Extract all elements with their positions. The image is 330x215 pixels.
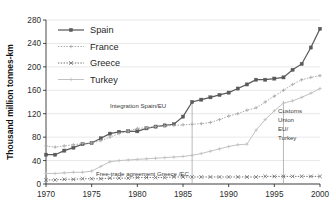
data-point-marker [200,152,203,155]
data-point-marker [72,146,75,149]
annotation-customs-line-2: Union [278,116,294,123]
x-tick-label: 1970 [37,190,56,199]
data-point-marker [53,172,56,175]
data-point-marker [318,87,321,90]
data-point-marker [209,96,212,99]
y-tick-label: 80 [32,133,42,142]
annotation-integration-spain-eu: Integration Spain/EU [110,102,166,109]
legend-item-turkey[interactable]: Turkey [58,75,118,85]
data-point-marker [191,100,194,103]
data-point-marker [254,175,258,179]
data-point-marker [300,96,303,99]
data-point-marker [309,76,312,79]
data-point-marker [209,121,212,124]
data-point-marker [209,150,212,153]
legend-label-spain: Spain [90,25,114,35]
chart-container: 04080120160200240280 1970197519801985199… [0,0,330,215]
annotation-customs-line-1: Customs [278,107,302,114]
data-point-marker [236,143,239,146]
axis-lines [46,20,320,184]
chart-legend: SpainFranceGreeceTurkey [58,25,120,85]
data-point-marker [309,92,312,95]
data-point-marker [54,153,57,156]
data-point-marker [318,27,321,30]
y-tick-label: 200 [27,63,41,72]
data-point-marker [44,172,47,175]
data-point-marker [69,78,72,81]
data-point-marker [254,78,257,81]
data-point-marker [69,28,72,31]
data-point-marker [163,156,166,159]
x-tick-label: 1995 [265,190,284,199]
data-point-marker [136,130,139,133]
data-point-marker [90,169,93,172]
data-series-layer [44,27,322,182]
data-point-marker [117,159,120,162]
data-point-marker [227,175,231,179]
data-point-marker [63,149,66,152]
data-point-marker [145,157,148,160]
data-point-marker [291,68,294,71]
legend-item-spain[interactable]: Spain [58,25,114,35]
data-point-marker [264,78,267,81]
data-point-marker [273,77,276,80]
data-point-marker [236,87,239,90]
x-tick-label: 1990 [220,190,239,199]
y-tick-label: 0 [36,180,41,189]
data-point-marker [254,106,257,109]
data-point-marker [291,83,294,86]
grid-lines [46,20,320,184]
data-point-marker [291,175,295,179]
y-tick-label: 120 [27,110,41,119]
data-point-marker [108,135,111,138]
y-tick-label: 40 [32,157,42,166]
data-point-marker [63,171,66,174]
legend-label-france: France [90,42,119,52]
data-point-marker [218,93,221,96]
data-point-marker [309,46,312,49]
data-point-marker [181,123,184,126]
annotation-customs-line-4: Turkey [278,134,297,141]
data-point-marker [227,91,230,94]
y-tick-label: 280 [27,16,41,25]
x-tick-label: 2000 [311,190,330,199]
data-point-marker [44,144,47,147]
data-point-marker [69,45,72,48]
data-point-marker [63,144,66,147]
data-point-marker [81,171,84,174]
data-point-marker [300,78,303,81]
data-point-marker [72,171,75,174]
data-point-marker [236,112,239,115]
line-chart: 04080120160200240280 1970197519801985199… [0,0,330,215]
data-point-marker [181,115,184,118]
data-point-marker [218,147,221,150]
data-point-marker [200,122,203,125]
data-point-marker [300,62,303,65]
y-axis-title: Thousand million tonnes-km [5,44,15,160]
data-point-marker [172,155,175,158]
data-point-marker [190,123,193,126]
x-tick-label: 1975 [83,190,102,199]
y-tick-label: 160 [27,86,41,95]
data-point-marker [227,145,230,148]
data-point-marker [181,155,184,158]
data-point-marker [218,118,221,121]
data-point-marker [318,74,321,77]
data-point-marker [227,114,230,117]
annotation-free-trade-greece-ec: Free-trade agreement Greece /EC [96,170,189,177]
data-point-marker [245,109,248,112]
x-tick-label: 1980 [128,190,147,199]
data-point-marker [44,153,47,156]
data-point-marker [81,177,85,181]
x-tick-label: 1985 [174,190,193,199]
data-point-marker [200,98,203,101]
legend-label-greece: Greece [90,58,120,68]
y-tick-label: 240 [27,39,41,48]
data-point-marker [263,175,267,179]
annotation-customs-line-3: EU/ [278,125,288,132]
data-point-marker [108,132,111,135]
y-axis-ticks: 04080120160200240280 [27,16,46,189]
x-axis-ticks: 1970197519801985199019952000 [37,184,330,199]
data-point-marker [53,145,56,148]
data-point-marker [282,76,285,79]
